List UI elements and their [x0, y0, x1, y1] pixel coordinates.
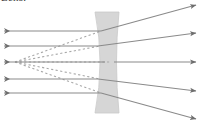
dashed-extension-4 [15, 62, 100, 79]
dashed-extension-5 [15, 62, 101, 93]
dashed-extension-2 [15, 46, 100, 62]
ray-diagram-canvas [0, 0, 203, 124]
diverging-lens-ray-diagram: Lens. [0, 0, 203, 124]
incoming-parallel-rays [4, 31, 105, 93]
